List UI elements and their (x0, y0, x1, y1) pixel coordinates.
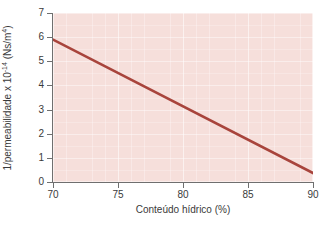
x-tick-75 (118, 183, 119, 188)
y-axis-title-prefix: 1/permeabilidade x 10 (2, 72, 13, 170)
y-tick-2 (47, 134, 52, 135)
y-tick-7 (47, 13, 52, 14)
x-ticklabel-90: 90 (298, 190, 328, 200)
x-tick-85 (248, 183, 249, 188)
x-ticklabel-85: 85 (233, 190, 263, 200)
y-axis-title: 1/permeabilidade x 10-14 (Ns/m4) (2, 25, 14, 170)
y-axis-title-exponent-10: -14 (1, 62, 8, 72)
permeability-trend-line (53, 40, 313, 174)
y-tick-5 (47, 61, 52, 62)
y-axis-title-wrapper: 1/permeabilidade x 10-14 (Ns/m4) (0, 13, 16, 182)
x-ticklabel-80: 80 (168, 190, 198, 200)
x-ticklabel-70: 70 (38, 190, 68, 200)
y-axis-line (52, 13, 53, 183)
chart-figure: 0 1 2 3 4 5 6 7 70 75 80 85 90 Conteúdo … (0, 0, 334, 226)
x-tick-80 (183, 183, 184, 188)
data-line-series (53, 13, 313, 182)
x-axis-title: Conteúdo hídrico (%) (53, 204, 313, 216)
y-tick-6 (47, 37, 52, 38)
y-tick-4 (47, 85, 52, 86)
x-tick-70 (53, 183, 54, 188)
y-tick-1 (47, 158, 52, 159)
y-tick-3 (47, 110, 52, 111)
y-axis-title-unit-close: ) (2, 25, 13, 28)
y-axis-title-unit-open: (Ns/m (2, 32, 13, 61)
y-tick-0 (47, 182, 52, 183)
plot-area (53, 13, 313, 182)
x-tick-90 (313, 183, 314, 188)
y-axis-title-exponent-m: 4 (1, 28, 8, 32)
x-ticklabel-75: 75 (103, 190, 133, 200)
